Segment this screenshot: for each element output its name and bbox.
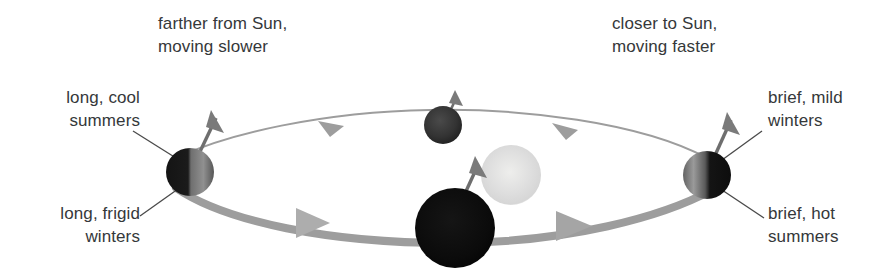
label-brief-mild-winters: brief, mild winters <box>768 86 892 132</box>
sun <box>481 145 541 205</box>
leader-line-long-frigid-winters <box>140 189 178 216</box>
planet-perihelion-right <box>683 112 740 199</box>
label-long-cool-summers: long, cool summers <box>0 86 140 132</box>
leader-line-long-cool-summers <box>133 131 176 158</box>
leader-line-brief-mild-winters <box>722 131 762 160</box>
planet-far-top <box>424 90 463 144</box>
leader-line-brief-hot-summers <box>722 190 764 218</box>
label-farther-from-sun: farther from Sun, moving slower <box>158 12 378 58</box>
planet-aphelion-left <box>166 110 224 196</box>
label-closer-to-sun: closer to Sun, moving faster <box>612 12 842 58</box>
orbit-arrow-far-right <box>552 123 578 140</box>
planet-near-bottom <box>415 156 495 268</box>
rotation-axis-arrow-top <box>449 90 463 106</box>
label-brief-hot-summers: brief, hot summers <box>768 202 892 248</box>
orbit-arrow-far-left <box>318 121 344 137</box>
orbit-seasons-diagram: farther from Sun, moving slower closer t… <box>0 0 892 279</box>
label-long-frigid-winters: long, frigid winters <box>0 202 140 248</box>
